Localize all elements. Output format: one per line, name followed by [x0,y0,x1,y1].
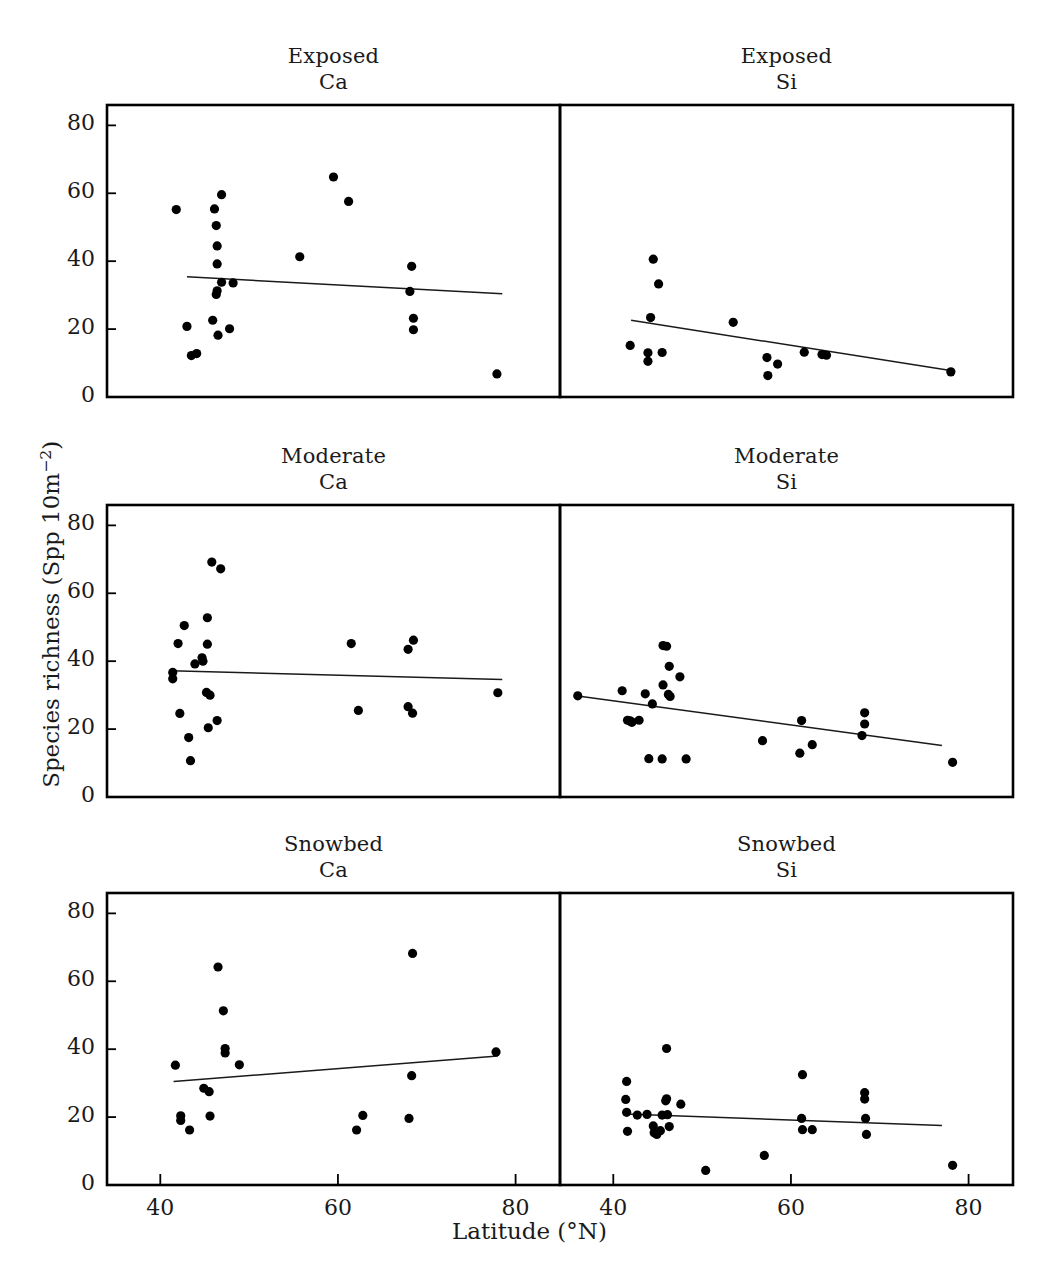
data-point [701,1166,710,1175]
data-point [662,642,671,651]
data-point [205,691,214,700]
plot-frame [560,505,1013,797]
data-point [682,754,691,763]
data-point [800,348,809,357]
plot-area-snowbed-ca [77,863,590,1215]
data-point [171,1061,180,1070]
y-tick-label: 0 [43,382,95,407]
data-point [763,371,772,380]
panel-title-line1: Exposed [741,44,832,68]
data-point [808,740,817,749]
y-tick-label: 40 [43,646,95,671]
data-point [649,255,658,264]
data-point [492,369,501,378]
data-point [658,680,667,689]
panel-title-line1: Snowbed [284,832,383,856]
data-point [860,719,869,728]
data-point [729,318,738,327]
data-point [172,205,181,214]
data-point [795,749,804,758]
data-point [409,636,418,645]
data-point [185,1125,194,1134]
data-point [405,287,414,296]
data-point [798,1070,807,1079]
data-point [644,754,653,763]
data-point [213,259,222,268]
panel-title-line1: Exposed [288,44,379,68]
y-tick-label: 40 [43,1034,95,1059]
data-point [862,1130,871,1139]
data-point [623,1127,632,1136]
data-point [407,262,416,271]
data-point [948,758,957,767]
y-tick-label: 20 [43,714,95,739]
plot-area-exposed-si [530,75,1043,427]
data-point [648,699,657,708]
data-point [654,279,663,288]
y-tick-label: 60 [43,578,95,603]
data-point [665,1122,674,1131]
y-axis-label-suffix: ) [38,441,64,450]
plot-frame [560,105,1013,397]
data-point [773,359,782,368]
y-tick-label: 0 [43,1170,95,1195]
data-point [198,657,207,666]
data-point [404,1114,413,1123]
data-point [658,348,667,357]
data-point [352,1125,361,1134]
x-tick-label: 40 [583,1195,643,1220]
data-point [168,674,177,683]
data-point [626,341,635,350]
data-point [404,645,413,654]
data-point [663,1110,672,1119]
data-point [358,1111,367,1120]
data-point [861,1114,870,1123]
data-point [643,348,652,357]
data-point [221,1048,230,1057]
x-tick-label: 80 [939,1195,999,1220]
data-point [642,1110,651,1119]
data-point [408,709,417,718]
plot-area-exposed-ca [77,75,590,427]
plot-frame [107,893,560,1185]
data-point [622,1077,631,1086]
data-point [216,564,225,573]
data-point [573,691,582,700]
y-tick-label: 20 [43,314,95,339]
data-point [175,709,184,718]
y-axis-label-exponent: −2 [36,450,55,473]
data-point [190,659,199,668]
y-tick-label: 80 [43,898,95,923]
data-point [213,716,222,725]
regression-line [171,671,502,680]
data-point [662,1044,671,1053]
x-tick-label: 60 [761,1195,821,1220]
data-point [176,1116,185,1125]
data-point [618,686,627,695]
data-point [409,325,418,334]
data-point [641,689,650,698]
data-point [235,1060,244,1069]
y-tick-label: 80 [43,510,95,535]
data-point [219,1006,228,1015]
data-point [225,324,234,333]
data-point [946,367,955,376]
data-point [634,716,643,725]
plot-frame [107,105,560,397]
panel-title-line1: Snowbed [737,832,836,856]
data-point [217,278,226,287]
data-point [409,314,418,323]
data-point [760,1151,769,1160]
y-tick-label: 80 [43,110,95,135]
data-point [347,639,356,648]
data-point [186,756,195,765]
data-point [213,962,222,971]
data-point [658,754,667,763]
data-point [662,1094,671,1103]
data-point [643,357,652,366]
plot-area-snowbed-si [530,863,1043,1215]
data-point [665,662,674,671]
data-point [213,331,222,340]
data-point [354,706,363,715]
y-tick-label: 60 [43,178,95,203]
